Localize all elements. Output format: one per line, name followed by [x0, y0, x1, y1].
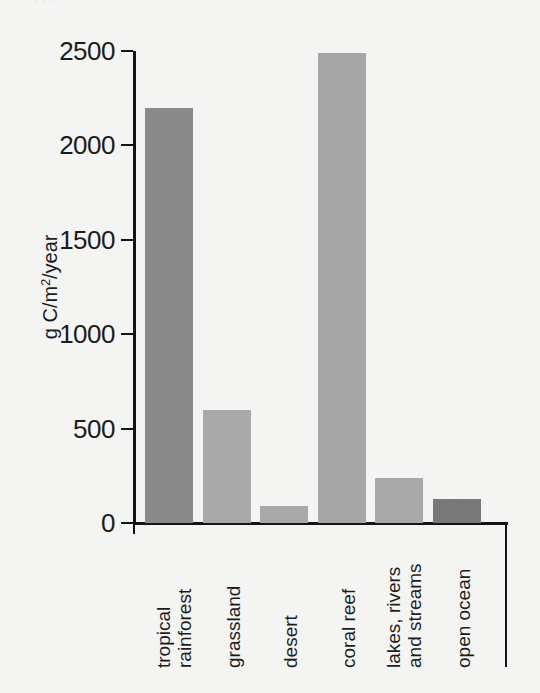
- category-label: lakes, rivers and streams: [383, 533, 426, 668]
- category-label: desert: [280, 533, 301, 668]
- superscript-two: 2: [38, 279, 52, 286]
- bar-chart-figure: g C/m2/year 05001000150020002500 tropica…: [0, 0, 540, 693]
- axis-frame-left-stub: [133, 522, 135, 534]
- bar: [145, 108, 193, 523]
- y-tick-2500: [121, 50, 133, 52]
- category-label: tropical rainforest: [153, 533, 196, 668]
- y-tick-label: 0: [15, 510, 115, 536]
- bar: [375, 478, 423, 523]
- category-label: open ocean: [453, 533, 474, 668]
- y-tick-label: 500: [15, 416, 115, 442]
- bar: [203, 410, 251, 523]
- y-tick-1500: [121, 239, 133, 241]
- bar: [433, 499, 481, 523]
- y-tick-label: 2500: [15, 38, 115, 64]
- y-tick-500: [121, 428, 133, 430]
- y-tick-label: 1500: [15, 227, 115, 253]
- y-axis-title: g C/m2/year: [38, 187, 62, 387]
- y-tick-label: 2000: [15, 132, 115, 158]
- bar: [318, 53, 366, 523]
- y-tick-0: [121, 522, 133, 524]
- axis-frame-right-stub: [505, 522, 507, 667]
- category-label: grassland: [223, 533, 244, 668]
- category-label: coral reef: [338, 533, 359, 668]
- bar: [260, 506, 308, 523]
- y-tick-2000: [121, 144, 133, 146]
- plot-area: [133, 51, 505, 523]
- y-tick-label: 1000: [15, 321, 115, 347]
- y-tick-1000: [121, 333, 133, 335]
